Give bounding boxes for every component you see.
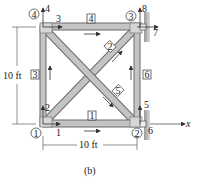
member-6	[134, 26, 140, 126]
member-4	[43, 23, 139, 30]
member-label-1: 1	[88, 110, 96, 121]
svg-text:4: 4	[89, 13, 94, 24]
node-label-4: 4	[29, 9, 39, 20]
dof-label-8: 8	[142, 3, 147, 14]
svg-text:1: 1	[34, 128, 39, 139]
gusset-node-1	[40, 117, 52, 127]
svg-text:3: 3	[129, 11, 134, 22]
svg-text:3: 3	[33, 69, 38, 80]
gusset-node-4	[40, 23, 52, 33]
svg-text:10 ft: 10 ft	[3, 70, 22, 81]
svg-text:10 ft: 10 ft	[79, 139, 98, 150]
dof-label-2: 2	[45, 102, 50, 113]
member-label-6: 6	[143, 69, 151, 80]
svg-text:2: 2	[108, 41, 113, 52]
truss-diagram: x 4 3 1 2 4 3 8 7 2 1 5 6 4 3 6 1 2	[0, 0, 206, 184]
dof-label-3: 3	[56, 13, 61, 24]
node-label-3: 3	[126, 11, 136, 22]
svg-text:5: 5	[116, 85, 121, 96]
dof-label-4: 4	[45, 3, 50, 14]
dof-label-6: 6	[148, 125, 153, 136]
figure-caption: (b)	[84, 165, 96, 177]
x-axis-label: x	[185, 118, 191, 129]
dof-label-5: 5	[144, 99, 149, 110]
member-label-3: 3	[31, 69, 39, 80]
svg-text:4: 4	[32, 9, 37, 20]
dof-label-1: 1	[56, 127, 61, 138]
svg-text:6: 6	[145, 69, 150, 80]
member-1	[43, 120, 139, 127]
width-dimension: 10 ft	[43, 136, 137, 150]
svg-text:1: 1	[90, 110, 95, 121]
dof-label-7: 7	[153, 27, 158, 38]
member-label-4: 4	[87, 13, 95, 24]
pin-node-2	[140, 121, 146, 127]
node-label-1: 1	[31, 128, 41, 139]
